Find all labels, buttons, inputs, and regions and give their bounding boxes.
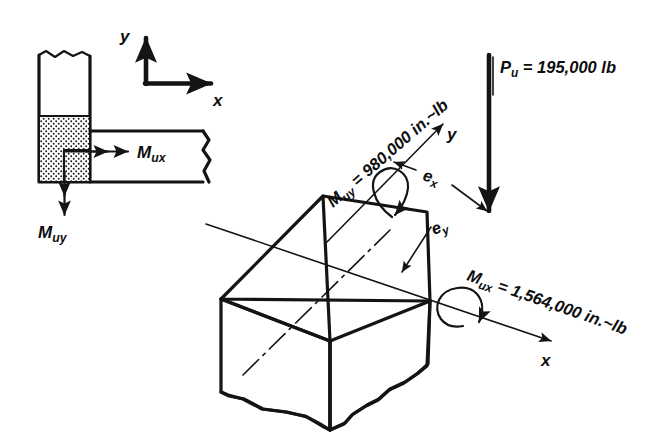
engineering-figure: Mux Muy y x [0, 0, 669, 442]
iso-axis-x-label: x [540, 351, 552, 370]
iso-load-arrow-Pu [489, 55, 493, 211]
iso-centerline [243, 230, 390, 375]
plan-beam-torn-right-edge [203, 131, 210, 182]
iso-right-face [330, 301, 430, 430]
iso-eccentricity-y [402, 227, 431, 272]
plan-moment-uy-subscript: uy [52, 231, 67, 245]
plan-coordinate-axes: y x [119, 27, 224, 110]
iso-load-label: Pu = 195,000 lb [500, 58, 616, 80]
iso-ey-leader [402, 227, 431, 272]
plan-vertical-leg-torn-top [39, 51, 90, 57]
plan-axis-y-label: y [119, 27, 131, 46]
plan-moment-ux-subscript: ux [151, 151, 166, 165]
iso-top-ridge [323, 196, 330, 341]
iso-ey-subscript: y [439, 222, 453, 238]
iso-ey-label: ey [428, 215, 452, 242]
iso-top-back-edge [221, 299, 330, 341]
iso-moment-uy-label: Muy = 980,000 in.~lb [323, 96, 454, 214]
plan-moment-ux-label: Mux [137, 143, 167, 165]
isometric-column-block [221, 196, 430, 430]
iso-axis-x: x [206, 224, 552, 370]
plan-moment-uy-label: Muy [38, 223, 68, 245]
iso-torn-bottom-left [221, 392, 330, 430]
iso-moment-ux-label: Mux = 1,564,000 in.~lb [464, 266, 630, 341]
plan-axis-x-label: x [212, 91, 224, 110]
corner-column-plan-view: Mux Muy [38, 51, 210, 245]
iso-moment-ux-curl [437, 288, 482, 327]
iso-ex-leader-right [452, 185, 487, 211]
iso-load-value: = 195,000 lb [518, 58, 616, 76]
iso-axis-y-label: y [446, 125, 458, 144]
iso-ex-label: ex [420, 166, 442, 192]
